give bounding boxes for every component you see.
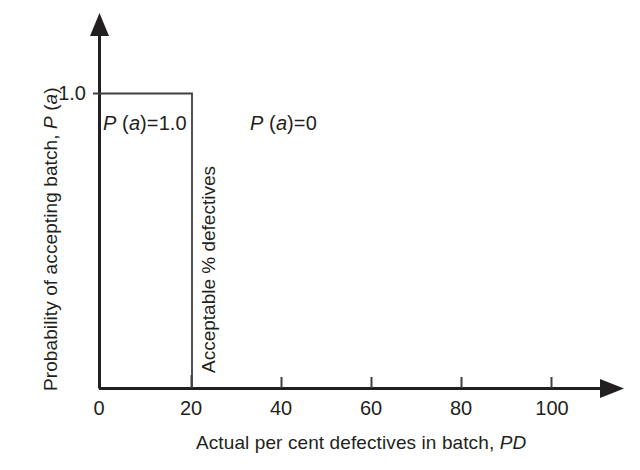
oc-step-curve (99, 94, 192, 389)
annotation-reject-tail: )=0 (287, 112, 317, 134)
operating-characteristic-chart: Probability of accepting batch, P (a) 1.… (0, 0, 640, 470)
annotation-accept-symbol-a: a (129, 112, 140, 134)
annotation-reject-symbol-p: P (250, 112, 263, 134)
annotation-reject-paren-open: ( (263, 112, 275, 134)
x-tick-label-60: 60 (360, 398, 382, 418)
y-axis-arrow-icon (90, 13, 109, 36)
x-tick-label-80: 80 (450, 398, 472, 418)
x-tick-label-20: 20 (180, 398, 202, 418)
y-axis-title-lead: Probability of accepting batch, (40, 129, 61, 391)
annotation-accept-tail: )=1.0 (140, 112, 187, 134)
x-axis-title-symbol-pd: PD (500, 432, 527, 453)
x-axis-title-lead: Actual per cent defectives in batch, (196, 432, 500, 453)
annotation-reject-probability: P (a)=0 (250, 113, 317, 133)
x-tick-label-0: 0 (93, 398, 104, 418)
annotation-reject-symbol-a: a (276, 112, 287, 134)
annotation-accept-probability: P (a)=1.0 (103, 113, 187, 133)
x-tick-label-40: 40 (270, 398, 292, 418)
acceptable-defectives-label: Acceptable % defectives (199, 166, 218, 373)
oc-curve-path (99, 94, 192, 389)
x-tick-label-100: 100 (535, 398, 568, 418)
x-axis (99, 379, 624, 398)
x-axis-ticks (192, 375, 552, 388)
y-axis-title-symbol-p: P (40, 116, 61, 129)
y-tick-label-1-0: 1.0 (38, 83, 86, 103)
y-axis-title: Probability of accepting batch, P (a) (41, 87, 60, 391)
annotation-accept-symbol-p: P (103, 112, 116, 134)
x-axis-title: Actual per cent defectives in batch, PD (196, 433, 526, 452)
x-axis-arrow-icon (600, 379, 624, 398)
annotation-accept-paren-open: ( (116, 112, 128, 134)
y-axis (90, 13, 109, 389)
y-axis-title-paren-open: ( (40, 104, 61, 116)
